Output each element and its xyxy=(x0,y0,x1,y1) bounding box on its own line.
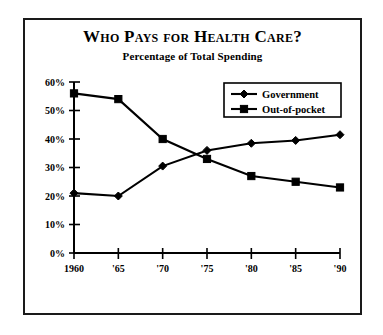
legend-label: Government xyxy=(262,89,319,100)
x-tick-label: '75 xyxy=(201,263,214,274)
x-axis: 1960'65'70'75'80'85'90 xyxy=(64,248,346,274)
marker-square xyxy=(159,135,166,142)
x-tick-label: 1960 xyxy=(64,263,84,274)
marker-square xyxy=(292,178,299,185)
marker-square xyxy=(336,184,343,191)
marker-diamond xyxy=(247,139,255,147)
x-tick-label: '70 xyxy=(156,263,169,274)
x-tick-label: '65 xyxy=(112,263,125,274)
y-axis-tick-labels: 0%10%20%30%40%50%60% xyxy=(45,77,65,259)
marker-square xyxy=(203,155,210,162)
legend-item-1[interactable]: Government xyxy=(231,89,319,100)
legend-label: Out-of-pocket xyxy=(262,104,325,115)
y-tick-label: 10% xyxy=(45,219,65,230)
x-tick-label: '80 xyxy=(245,263,258,274)
chart-legend: GovernmentOut-of-pocket xyxy=(224,83,341,117)
marker-square xyxy=(240,105,247,112)
chart-plot-area: 0%10%20%30%40%50%60% 1960'65'70'75'80'85… xyxy=(25,20,364,317)
chart-figure: Who Pays for Health Care? Percentage of … xyxy=(23,18,362,315)
marker-diamond xyxy=(203,146,211,154)
marker-diamond xyxy=(292,136,300,144)
marker-square xyxy=(248,172,255,179)
series-1 xyxy=(70,131,344,200)
x-tick-label: '90 xyxy=(334,263,347,274)
series-line xyxy=(74,135,340,196)
y-tick-label: 0% xyxy=(50,248,65,259)
x-tick-label: '85 xyxy=(289,263,302,274)
y-tick-label: 50% xyxy=(45,105,65,116)
y-axis: 0%10%20%30%40%50%60% xyxy=(45,77,80,259)
marker-square xyxy=(115,96,122,103)
y-tick-label: 20% xyxy=(45,191,65,202)
marker-square xyxy=(70,90,77,97)
x-axis-tick-labels: 1960'65'70'75'80'85'90 xyxy=(64,263,346,274)
y-tick-label: 30% xyxy=(45,162,65,173)
marker-diamond xyxy=(336,131,344,139)
y-tick-label: 60% xyxy=(45,77,65,88)
y-tick-label: 40% xyxy=(45,134,65,145)
